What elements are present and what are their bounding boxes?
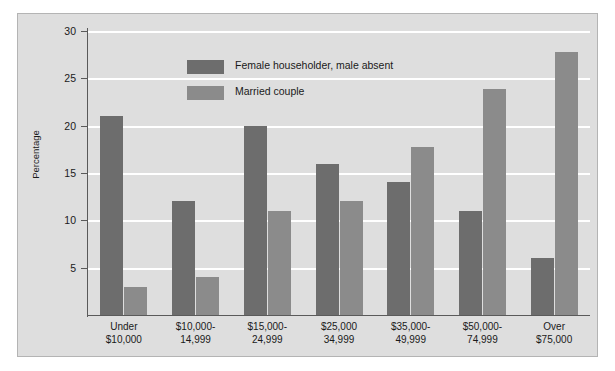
x-axis-category-label-line: Over	[518, 321, 590, 334]
x-axis-category-label-line: Under	[88, 321, 160, 334]
y-axis-tick-label: 5	[42, 262, 76, 274]
y-axis-tick-label: 25	[42, 72, 76, 84]
legend-swatch	[187, 86, 224, 100]
legend-label: Married couple	[235, 85, 304, 97]
x-axis-category-label-line: $50,000-	[447, 321, 519, 334]
x-axis-category-label-line: 49,999	[375, 334, 447, 347]
x-axis-category-label: $15,000-24,999	[231, 321, 303, 346]
x-axis-category-label: $10,000-14,999	[160, 321, 232, 346]
x-axis-category-label-line: $10,000	[88, 334, 160, 347]
x-axis-category-label-line: 14,999	[160, 334, 232, 347]
y-axis-tick-label: 20	[42, 120, 76, 132]
y-axis-title-wrapper: Percentage	[24, 14, 46, 356]
y-axis-tick-label: 30	[42, 25, 76, 37]
x-axis-category-label: Under$10,000	[88, 321, 160, 346]
chart-panel: 51015202530 Percentage Under$10,000$10,0…	[17, 13, 598, 357]
x-axis-category-label-line: 74,999	[447, 334, 519, 347]
x-axis-category-label-line: $75,000	[518, 334, 590, 347]
legend-swatch	[187, 60, 224, 74]
legend-label: Female householder, male absent	[235, 59, 393, 71]
y-axis-tick-label: 10	[42, 214, 76, 226]
x-axis-category-label-line: 34,999	[303, 334, 375, 347]
x-axis-category-label-line: $10,000-	[160, 321, 232, 334]
y-axis-tick-label: 15	[42, 167, 76, 179]
x-axis-category-label: $25,00034,999	[303, 321, 375, 346]
x-axis-category-label-line: $25,000	[303, 321, 375, 334]
y-axis-title: Percentage	[30, 100, 41, 210]
x-axis-category-label: $35,000-49,999	[375, 321, 447, 346]
chart-figure: 51015202530 Percentage Under$10,000$10,0…	[0, 0, 615, 371]
x-axis-category-label: Over$75,000	[518, 321, 590, 346]
x-axis-category-label-line: $15,000-	[231, 321, 303, 334]
x-axis-category-label: $50,000-74,999	[447, 321, 519, 346]
x-axis-category-label-line: $35,000-	[375, 321, 447, 334]
x-axis-category-label-line: 24,999	[231, 334, 303, 347]
